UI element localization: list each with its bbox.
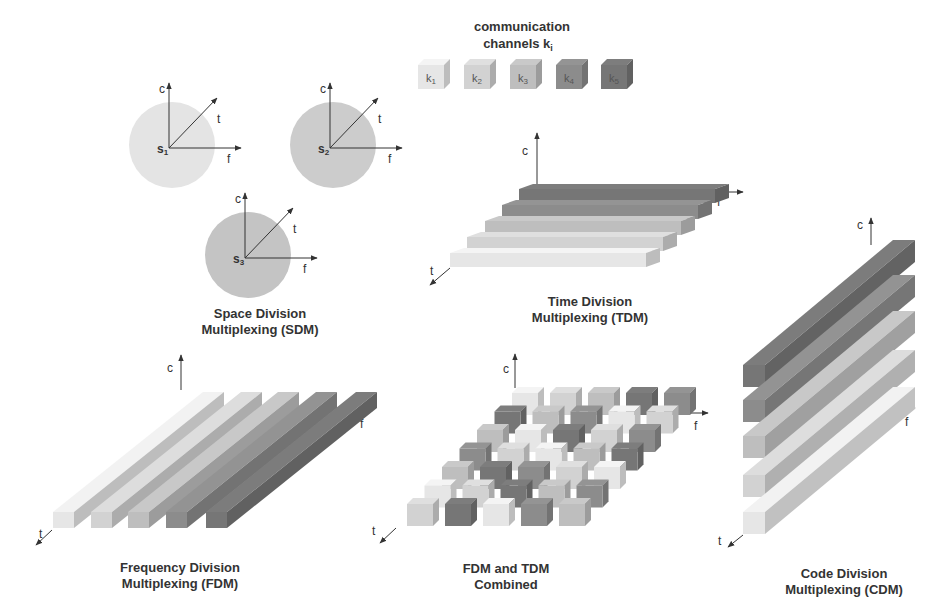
time-frequency-cell — [445, 498, 477, 526]
tdm-panel: cft — [430, 133, 743, 285]
c-axis-label: c — [235, 192, 241, 206]
time-frequency-cell — [483, 498, 515, 526]
legend-title-line1: communication — [474, 19, 570, 34]
cdm-title-line1: Code Division — [744, 566, 943, 582]
legend-cube-k1: k1 — [418, 59, 450, 89]
legend-cube-k5: k5 — [601, 59, 633, 89]
fdm-panel: cft — [36, 355, 377, 545]
sdm-title: Space Division Multiplexing (SDM) — [160, 306, 360, 338]
cdm-title-line2: Multiplexing (CDM) — [744, 582, 943, 598]
cdm-title: Code Division Multiplexing (CDM) — [744, 566, 943, 598]
f-axis-label: f — [905, 415, 909, 429]
sdm-title-line2: Multiplexing (SDM) — [160, 322, 360, 338]
f-axis-label: f — [694, 419, 698, 433]
t-axis-label: t — [430, 264, 434, 278]
time-frequency-cell — [559, 498, 591, 526]
cdm-panel: cft — [718, 218, 915, 548]
legend-channel-cubes: k1k2k3k4k5 — [418, 59, 633, 89]
f-axis-label: f — [227, 152, 231, 166]
c-axis-label: c — [320, 82, 326, 96]
t-axis-arrow — [380, 528, 396, 543]
tdm-title-line1: Time Division — [490, 294, 690, 310]
sdm-title-line1: Space Division — [160, 306, 360, 322]
fdm-title-line2: Multiplexing (FDM) — [80, 576, 280, 592]
legend-title-line2: channels ki — [483, 36, 553, 53]
time-frequency-cell — [407, 498, 439, 526]
combined-title-line1: FDM and TDM — [406, 561, 606, 577]
sdm-panel: cfts1cfts2cfts3 — [129, 82, 402, 298]
t-axis-label: t — [378, 112, 382, 126]
t-axis-label: t — [372, 524, 376, 538]
fdm-title-line1: Frequency Division — [80, 560, 280, 576]
legend-cube-k2: k2 — [464, 59, 496, 89]
sender-s2: cfts2 — [290, 82, 402, 188]
time-slot-bar-k1 — [450, 248, 660, 267]
f-axis-label: f — [303, 262, 307, 276]
t-axis-label: t — [718, 534, 722, 548]
legend: communication channels ki k1k2k3k4k5 — [418, 19, 633, 89]
t-axis-arrow — [728, 535, 743, 547]
fdm-title: Frequency Division Multiplexing (FDM) — [80, 560, 280, 592]
c-axis-label: c — [167, 361, 173, 375]
c-axis-label: c — [159, 82, 165, 96]
combined-title-line2: Combined — [406, 577, 606, 593]
legend-cube-k4: k4 — [556, 59, 588, 89]
combined-title: FDM and TDM Combined — [406, 561, 606, 593]
sender-s3: cfts3 — [205, 192, 317, 298]
time-frequency-cell — [521, 498, 553, 526]
c-axis-label: c — [522, 144, 528, 158]
tdm-title-line2: Multiplexing (TDM) — [490, 310, 690, 326]
c-axis-label: c — [857, 218, 863, 232]
tdm-title: Time Division Multiplexing (TDM) — [490, 294, 690, 326]
multiplexing-diagram: communication channels ki k1k2k3k4k5 cft… — [0, 0, 943, 615]
f-axis-label: f — [388, 152, 392, 166]
c-axis-label: c — [503, 362, 509, 376]
legend-cube-k3: k3 — [510, 59, 542, 89]
sender-s1: cfts1 — [129, 82, 241, 188]
t-axis-label: t — [293, 222, 297, 236]
fdm-tdm-combined-panel: cft — [372, 354, 708, 543]
t-axis-label: t — [217, 112, 221, 126]
